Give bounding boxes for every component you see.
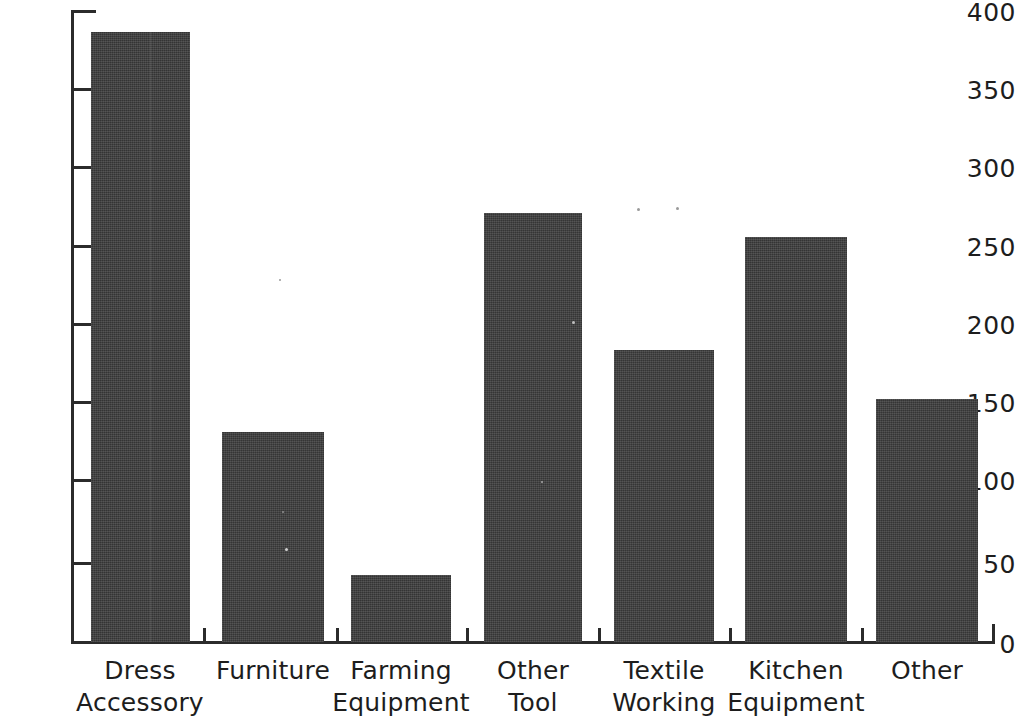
scan-speckle [285,548,288,551]
y-axis-line [71,10,74,644]
x-tick-6 [861,628,864,642]
bar-other[interactable] [876,399,978,642]
scan-speckle [282,511,284,513]
bar-chart: 400 350 300 250 200 150 100 50 0 Dress A… [0,0,1016,728]
y-tick-label-300: 300 [958,156,1016,181]
y-tick-400 [74,10,96,13]
x-tick-1 [203,628,206,642]
bar-farming-equipment[interactable] [351,575,451,642]
bar-furniture[interactable] [222,432,324,642]
scan-speckle [541,481,543,483]
y-tick-label-200: 200 [958,313,1016,338]
scan-speckle [676,207,679,210]
scan-speckle [279,279,281,281]
x-label-dress-accessory: Dress Accessory [60,655,220,719]
x-tick-3 [466,628,469,642]
scan-speckle [637,208,640,211]
y-tick-label-350: 350 [958,78,1016,103]
x-tick-5 [729,628,732,642]
x-tick-2 [336,628,339,642]
x-label-other-tool: Other Tool [458,655,608,719]
x-label-farming-equipment: Farming Equipment [322,655,480,719]
y-tick-label-250: 250 [958,235,1016,260]
x-label-kitchen-equipment: Kitchen Equipment [716,655,876,719]
bar-dress-accessory[interactable] [91,32,190,642]
scan-speckle [572,321,575,324]
x-label-other: Other [862,655,992,687]
bar-other-tool[interactable] [484,213,582,642]
x-tick-4 [598,628,601,642]
bar-textile-working[interactable] [614,350,714,642]
bar-scan-seam [150,32,151,642]
bar-kitchen-equipment[interactable] [745,237,847,642]
y-tick-label-400: 400 [958,0,1016,25]
